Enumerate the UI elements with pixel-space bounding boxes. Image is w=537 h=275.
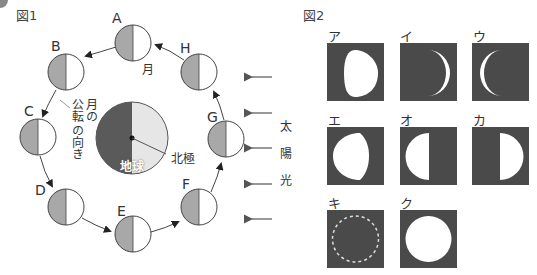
phase-label-u: ウ bbox=[473, 26, 486, 45]
phase-ka-panel bbox=[472, 127, 529, 185]
phase-label-a: ア bbox=[328, 26, 341, 45]
phase-ki-panel bbox=[327, 210, 384, 268]
phase-label-i: イ bbox=[400, 26, 413, 45]
figure2-panels bbox=[0, 0, 537, 275]
phase-label-ki: キ bbox=[328, 193, 341, 212]
phase-i-panel bbox=[400, 43, 457, 101]
phase-label-ka: カ bbox=[473, 110, 486, 129]
phase-ku-panel bbox=[400, 210, 457, 268]
phase-o-panel bbox=[400, 127, 457, 185]
phase-label-ku: ク bbox=[400, 193, 413, 212]
phase-a-panel bbox=[327, 43, 384, 101]
phase-label-o: オ bbox=[400, 110, 413, 129]
phase-u-panel bbox=[472, 43, 529, 101]
phase-e-panel bbox=[327, 127, 384, 185]
phase-label-e: エ bbox=[328, 110, 341, 129]
